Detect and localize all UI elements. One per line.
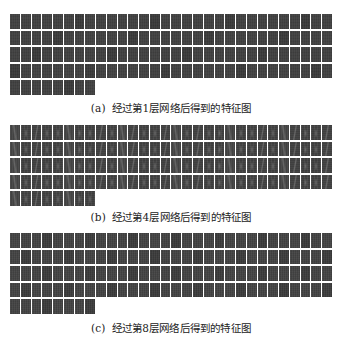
feature-map-cell [21, 47, 31, 62]
feature-map-cell [96, 125, 106, 140]
feature-map-cell [311, 64, 321, 79]
feature-map-cell [32, 266, 42, 281]
feature-map-cell [96, 158, 106, 173]
feature-map-cell [236, 64, 246, 79]
feature-map-cell [118, 158, 128, 173]
feature-map-cell [139, 142, 149, 157]
feature-map-cell [128, 250, 138, 265]
feature-map-cell [64, 299, 74, 314]
feature-map-cell [85, 266, 95, 281]
feature-map-cell [64, 175, 74, 190]
feature-map-cell [171, 250, 181, 265]
feature-map-cell [311, 47, 321, 62]
feature-map-cell [21, 80, 31, 95]
feature-map-cell [193, 14, 203, 29]
feature-map-cell [215, 142, 225, 157]
feature-map-cell [215, 233, 225, 248]
feature-map-cell [85, 80, 95, 95]
feature-map-cell [193, 47, 203, 62]
feature-map-cell [247, 142, 257, 157]
feature-map-cell [42, 266, 52, 281]
feature-map-cell [96, 64, 106, 79]
feature-map-cell [311, 158, 321, 173]
feature-map-cell [53, 158, 63, 173]
feature-map-cell [85, 125, 95, 140]
feature-map-cell [204, 283, 214, 298]
feature-map-cell [322, 14, 332, 29]
feature-map-cell [107, 175, 117, 190]
feature-map-cell [32, 158, 42, 173]
feature-map-cell [53, 299, 63, 314]
feature-map-cell [128, 233, 138, 248]
feature-map-cell [279, 233, 289, 248]
feature-map-cell [128, 47, 138, 62]
feature-map-cell [64, 31, 74, 46]
feature-map-cell [258, 47, 268, 62]
feature-map-cell [10, 191, 20, 206]
grid-c [10, 233, 332, 314]
feature-map-cell [279, 250, 289, 265]
feature-map-cell [236, 233, 246, 248]
feature-map-cell [279, 14, 289, 29]
feature-map-cell [85, 191, 95, 206]
feature-map-cell [64, 158, 74, 173]
feature-map-cell [322, 266, 332, 281]
feature-map-cell [85, 233, 95, 248]
feature-map-cell [236, 47, 246, 62]
feature-map-cell [182, 31, 192, 46]
feature-map-cell [139, 175, 149, 190]
feature-map-cell [322, 233, 332, 248]
feature-map-cell [107, 283, 117, 298]
feature-map-cell [64, 80, 74, 95]
feature-map-cell [279, 64, 289, 79]
feature-map-cell [118, 14, 128, 29]
feature-map-cell [75, 31, 85, 46]
feature-map-cell [107, 142, 117, 157]
caption-a-tag: (a) [91, 102, 106, 114]
feature-map-cell [10, 250, 20, 265]
feature-map-cell [10, 283, 20, 298]
caption-c-tag: (c) [91, 322, 106, 334]
feature-map-cell [139, 158, 149, 173]
feature-map-cell [311, 283, 321, 298]
feature-map-cell [118, 266, 128, 281]
feature-map-cell [75, 80, 85, 95]
feature-map-cell [85, 14, 95, 29]
feature-map-cell [215, 14, 225, 29]
feature-map-cell [150, 14, 160, 29]
feature-map-cell [171, 142, 181, 157]
feature-map-cell [290, 158, 300, 173]
feature-map-cell [118, 233, 128, 248]
feature-map-cell [311, 142, 321, 157]
feature-map-cell [42, 125, 52, 140]
feature-map-cell [171, 233, 181, 248]
feature-map-cell [279, 31, 289, 46]
feature-map-cell [290, 47, 300, 62]
feature-map-cell [322, 283, 332, 298]
feature-map-cell [96, 142, 106, 157]
feature-map-cell [225, 142, 235, 157]
feature-map-cell [150, 175, 160, 190]
caption-a: (a)经过第1层网络后得到的特征图 [0, 100, 342, 115]
feature-map-cell [290, 283, 300, 298]
feature-map-cell [64, 233, 74, 248]
feature-map-cell [53, 142, 63, 157]
feature-map-cell [204, 14, 214, 29]
feature-map-cell [247, 47, 257, 62]
feature-map-cell [247, 158, 257, 173]
feature-map-cell [118, 250, 128, 265]
feature-map-cell [258, 64, 268, 79]
feature-map-cell [311, 125, 321, 140]
feature-map-cell [311, 14, 321, 29]
feature-map-grid-a [10, 14, 332, 95]
feature-map-cell [322, 158, 332, 173]
feature-map-cell [236, 175, 246, 190]
feature-map-cell [128, 125, 138, 140]
feature-map-cell [236, 250, 246, 265]
feature-map-cell [171, 47, 181, 62]
feature-map-cell [193, 64, 203, 79]
feature-map-cell [247, 233, 257, 248]
feature-map-cell [193, 250, 203, 265]
feature-map-cell [75, 191, 85, 206]
feature-map-cell [96, 47, 106, 62]
